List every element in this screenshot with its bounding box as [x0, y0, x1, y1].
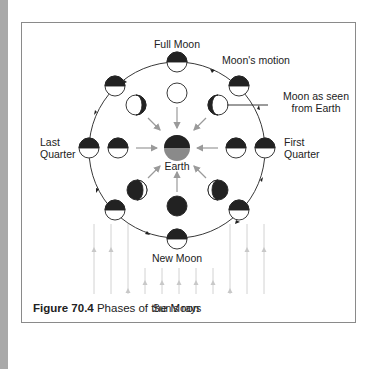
- earth: [164, 135, 190, 161]
- figure-number: Figure 70.4: [33, 302, 94, 314]
- label-moon-as-seen-1: Moon as seen: [283, 90, 349, 102]
- figure-caption: Figure 70.4 Phases of the Moon: [33, 302, 199, 314]
- label-moons-motion: Moon's motion: [222, 54, 290, 66]
- moon-outer-bottom-left: [105, 200, 125, 220]
- moon-seen-waxing-crescent: [208, 180, 228, 200]
- moon-outer-bottom-right: [229, 200, 249, 220]
- moon-seen-waxing-gibbous: [208, 95, 228, 115]
- moon-outer-top-right: [229, 76, 249, 96]
- moon-seen-last-quarter: [108, 138, 128, 158]
- moon-seen-waning-crescent: [127, 180, 147, 200]
- moon-outer-top: [167, 52, 187, 72]
- label-new-moon: New Moon: [152, 252, 202, 264]
- moon-outer-right: [255, 138, 275, 158]
- figure-title: Phases of the Moon: [97, 302, 199, 314]
- label-moon-as-seen-2: from Earth: [291, 102, 340, 114]
- moon-seen-full: [167, 83, 187, 103]
- moon-outer-left: [79, 138, 99, 158]
- moon-seen-waning-gibbous: [126, 95, 146, 115]
- moon-seen-first-quarter: [226, 138, 246, 158]
- label-first-quarter-2: Quarter: [284, 148, 320, 160]
- moon-outer-top-left: [105, 76, 125, 96]
- label-last-quarter-1: Last: [40, 136, 60, 148]
- moon-seen-new: [167, 196, 187, 216]
- label-full-moon: Full Moon: [154, 38, 200, 50]
- label-first-quarter-1: First: [284, 136, 304, 148]
- moon-outer-bottom: [167, 229, 187, 249]
- label-earth: Earth: [164, 160, 189, 172]
- label-last-quarter-2: Quarter: [40, 148, 76, 160]
